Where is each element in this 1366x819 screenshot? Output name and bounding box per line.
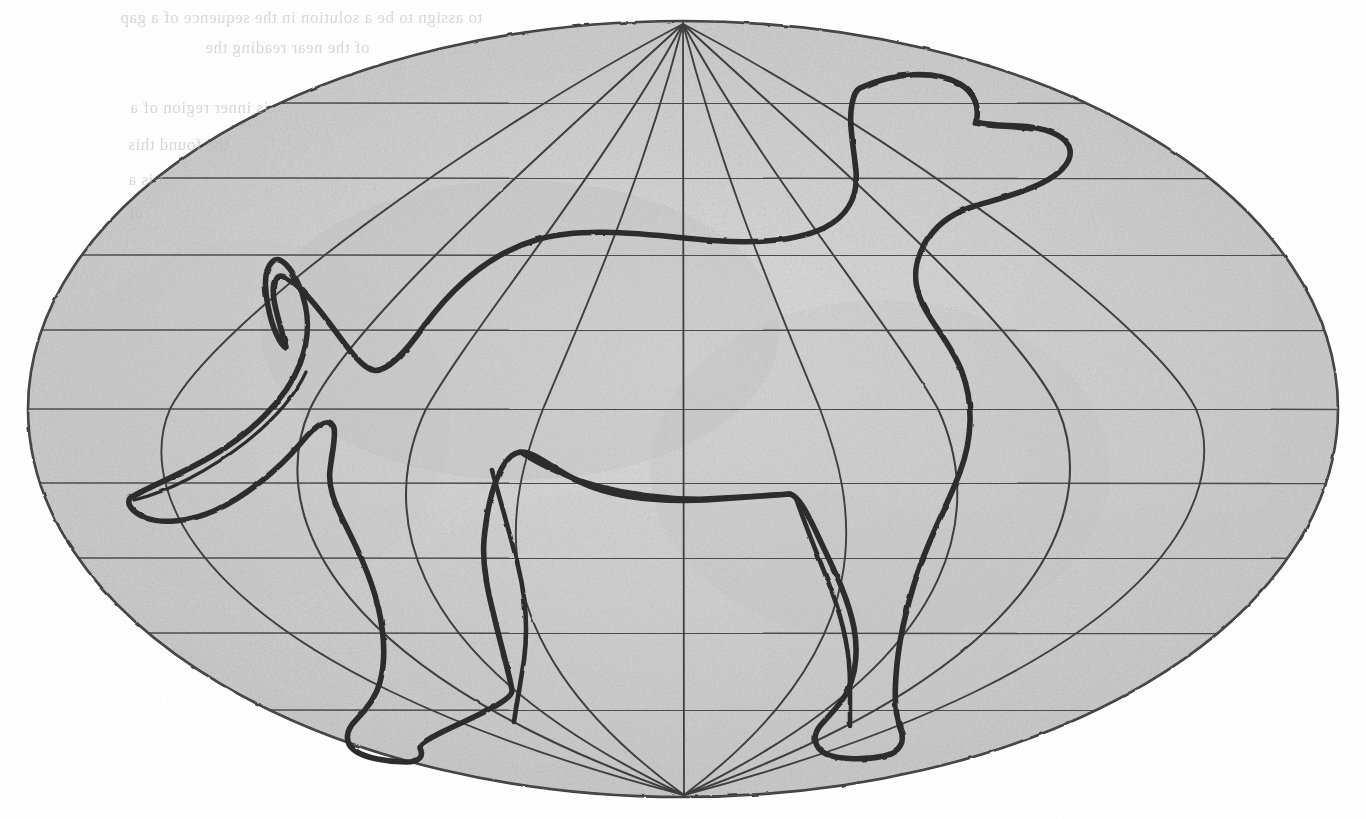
drawing-canvas: to assign to be a solution in the sequen…: [0, 0, 1366, 819]
pencil-drawing: [0, 0, 1366, 819]
meridian-line: [683, 22, 684, 797]
